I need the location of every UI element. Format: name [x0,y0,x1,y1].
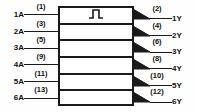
output-pin-1: (2) [142,5,172,13]
logic-diagram: 1A (1) 2A (3) 3A (5) 4A (9) 5A (11) 6A (… [0,0,197,112]
input-label-2: 2A [4,28,24,36]
output-label-5: 5Y [172,82,194,90]
row-divider-3 [58,56,134,58]
row-divider-5 [58,89,134,91]
output-label-3: 3Y [172,48,194,56]
output-label-4: 4Y [172,65,194,73]
output-label-2: 2Y [172,32,194,40]
row-divider-1 [58,23,134,25]
input-label-4: 4A [4,61,24,69]
schmitt-trigger-hysteresis-icon [88,8,104,20]
output-label-6: 6Y [172,98,194,106]
row-divider-4 [58,73,134,75]
input-pin-2: (3) [26,20,56,28]
input-label-5: 5A [4,78,24,86]
input-pin-4: (9) [26,53,56,61]
input-lead-5 [24,81,58,82]
input-pin-3: (5) [26,36,56,44]
output-lead-1 [150,18,172,19]
output-lead-2 [150,35,172,36]
output-lead-3 [150,52,172,53]
output-lead-4 [150,68,172,69]
input-pin-5: (11) [26,70,56,78]
output-pin-4: (8) [142,55,172,63]
input-lead-3 [24,48,58,49]
row-divider-2 [58,39,134,41]
input-label-3: 3A [4,44,24,52]
output-lead-5 [150,85,172,86]
input-label-6: 6A [4,94,24,102]
input-label-1: 1A [4,11,24,19]
output-pin-5: (10) [142,72,172,80]
input-pin-6: (13) [26,86,56,94]
input-lead-4 [24,64,58,65]
input-pin-1: (1) [26,3,56,11]
output-pin-6: (12) [142,88,172,96]
input-lead-1 [24,14,58,15]
input-lead-2 [24,31,58,32]
output-pin-3: (6) [142,38,172,46]
output-lead-6 [150,102,172,103]
output-pin-2: (4) [142,22,172,30]
input-lead-6 [24,98,58,99]
output-label-1: 1Y [172,15,194,23]
